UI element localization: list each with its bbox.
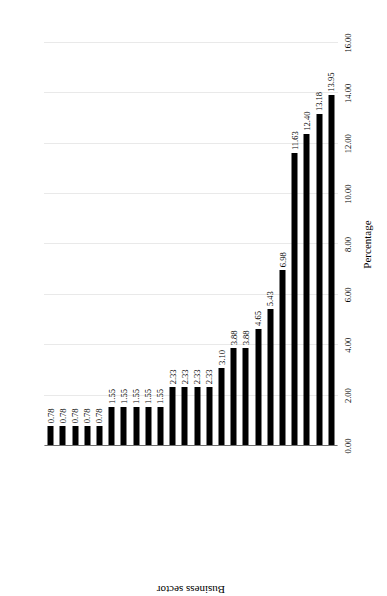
value-axis-tick-label: 8.00 xyxy=(343,237,352,252)
bar-series: 0.780.780.780.780.781.551.551.551.551.55… xyxy=(44,43,337,446)
rotated-figure-wrapper: 0.780.780.780.780.781.551.551.551.551.55… xyxy=(0,0,387,596)
bar-value-label: 1.55 xyxy=(143,389,152,404)
bar xyxy=(230,348,236,446)
bar-value-label: 2.33 xyxy=(204,369,213,384)
value-axis-tick-label: 2.00 xyxy=(343,388,352,403)
bar-chart-figure: 0.780.780.780.780.781.551.551.551.551.55… xyxy=(0,0,387,596)
bar-value-label: 3.88 xyxy=(229,330,238,345)
bar-value-label: 0.78 xyxy=(82,408,91,423)
bar xyxy=(328,95,334,446)
bar-value-label: 5.43 xyxy=(265,291,274,306)
bar xyxy=(169,387,175,446)
bar-value-label: 6.98 xyxy=(278,252,287,267)
bar xyxy=(279,270,285,446)
bar xyxy=(133,407,139,446)
value-axis-tick-label: 6.00 xyxy=(343,287,352,302)
bar xyxy=(157,407,163,446)
bar-value-label: 3.10 xyxy=(217,350,226,365)
bar xyxy=(267,309,273,446)
bar-value-label: 13.18 xyxy=(314,92,323,111)
bar-value-label: 3.88 xyxy=(241,330,250,345)
value-axis-tick-label: 0.00 xyxy=(343,439,352,454)
bar-value-label: 1.55 xyxy=(155,389,164,404)
bar-value-label: 0.78 xyxy=(70,408,79,423)
bar xyxy=(291,153,297,446)
category-axis-line xyxy=(44,445,337,446)
bar xyxy=(84,426,90,446)
bar-value-label: 0.78 xyxy=(46,408,55,423)
bar-value-label: 1.55 xyxy=(107,389,116,404)
category-axis-title: Business sector xyxy=(44,580,337,596)
plot-area: 0.780.780.780.780.781.551.551.551.551.55… xyxy=(44,43,337,446)
bar xyxy=(181,387,187,446)
bar xyxy=(47,426,53,446)
bar-value-label: 1.55 xyxy=(119,389,128,404)
value-axis-tick-label: 16.00 xyxy=(343,33,352,52)
bar xyxy=(72,426,78,446)
bar xyxy=(120,407,126,446)
value-axis-tick-label: 4.00 xyxy=(343,338,352,353)
bar-value-label: 0.78 xyxy=(58,408,67,423)
bar-value-label: 2.33 xyxy=(192,369,201,384)
bar xyxy=(303,134,309,446)
bar xyxy=(194,387,200,446)
value-axis-title: Percentage xyxy=(360,43,372,446)
bar-value-label: 12.40 xyxy=(302,112,311,131)
bar xyxy=(145,407,151,446)
bar-value-label: 2.33 xyxy=(180,369,189,384)
bar xyxy=(255,329,261,446)
bar-value-label: 4.65 xyxy=(253,311,262,326)
bar xyxy=(96,426,102,446)
value-axis-tick-label: 14.00 xyxy=(343,84,352,103)
bar-value-label: 0.78 xyxy=(94,408,103,423)
bar-value-label: 1.55 xyxy=(131,389,140,404)
bar xyxy=(206,387,212,446)
bar xyxy=(242,348,248,446)
bar-value-label: 13.95 xyxy=(326,73,335,92)
bar-value-label: 2.33 xyxy=(168,369,177,384)
bar xyxy=(59,426,65,446)
bar-value-label: 11.63 xyxy=(290,131,299,150)
value-axis-tick-labels: 0.002.004.006.008.0010.0012.0014.0016.00 xyxy=(343,43,357,446)
value-axis-tick-label: 12.00 xyxy=(343,134,352,153)
bar xyxy=(108,407,114,446)
bar xyxy=(316,114,322,446)
bar xyxy=(218,368,224,446)
value-axis-tick-label: 10.00 xyxy=(343,185,352,204)
